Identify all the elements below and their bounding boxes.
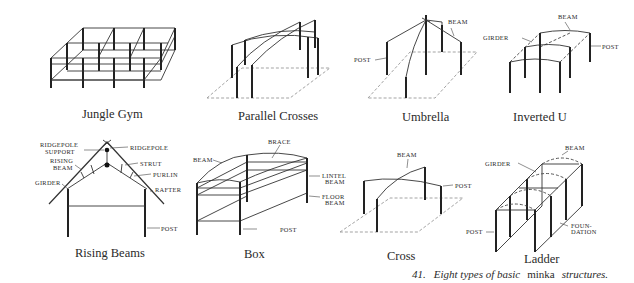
label-strut: STRUT bbox=[140, 160, 162, 167]
leader-line bbox=[443, 185, 453, 186]
label-girder: GIRDER bbox=[485, 160, 511, 167]
label-ridgepole: RIDGEPOLE bbox=[130, 144, 168, 151]
label-beam: BEAM bbox=[448, 18, 468, 25]
caption-number: 41. bbox=[412, 268, 426, 280]
label-foundation-2: DATION bbox=[571, 228, 597, 235]
label-purlin: PURLIN bbox=[153, 171, 178, 178]
label-beam: BEAM bbox=[565, 144, 585, 151]
leader-line bbox=[213, 160, 222, 163]
parallel-crosses-diagram bbox=[207, 20, 330, 98]
panel-title-rising-beams: Rising Beams bbox=[75, 246, 145, 260]
leader-line bbox=[75, 165, 82, 170]
leader-line bbox=[522, 38, 532, 42]
panel-title-box: Box bbox=[244, 247, 266, 261]
label-post: POST bbox=[161, 225, 178, 232]
figure-caption: 41. Eight types of basic minka structure… bbox=[412, 264, 608, 281]
leader-line bbox=[518, 163, 536, 172]
label-brace: BRACE bbox=[268, 138, 291, 145]
label-beam: BEAM bbox=[193, 156, 213, 163]
leader-line bbox=[565, 22, 570, 30]
label-ridgepole-support-2: SUPPORT bbox=[45, 148, 75, 155]
label-post: POST bbox=[280, 226, 297, 233]
panel-title-umbrella: Umbrella bbox=[402, 110, 450, 124]
ladder-diagram bbox=[496, 158, 582, 252]
minka-structures-figure: Jungle Gym Parallel Crosses BEAM POST Um… bbox=[0, 0, 634, 283]
label-rafter: RAFTER bbox=[155, 186, 182, 193]
leader-line bbox=[375, 58, 386, 60]
panel-title-cross: Cross bbox=[387, 249, 416, 263]
label-ridgepole-support-1: RIDGEPOLE bbox=[40, 141, 78, 148]
label-post: POST bbox=[602, 43, 619, 50]
label-post: POST bbox=[354, 56, 371, 63]
inverted-u-diagram bbox=[510, 31, 590, 94]
cross-diagram bbox=[340, 167, 463, 232]
umbrella-diagram bbox=[368, 15, 477, 98]
leader-line bbox=[562, 151, 568, 155]
caption-prefix: Eight types of basic bbox=[433, 268, 521, 280]
panel-title-parallel-crosses: Parallel Crosses bbox=[238, 109, 318, 123]
label-beam: BEAM bbox=[397, 151, 417, 158]
label-post: POST bbox=[455, 182, 472, 189]
panel-title-jungle-gym: Jungle Gym bbox=[82, 107, 143, 121]
leader-line bbox=[407, 159, 408, 168]
caption-suffix: structures. bbox=[562, 268, 608, 280]
label-post: POST bbox=[466, 228, 483, 235]
label-lintel-beam-2: BEAM bbox=[325, 178, 345, 185]
label-rising-beam-1: RISING bbox=[50, 157, 73, 164]
label-beam: BEAM bbox=[558, 13, 578, 20]
label-girder: GIRDER bbox=[483, 34, 509, 41]
box-diagram bbox=[197, 153, 307, 235]
label-rising-beam-2: BEAM bbox=[53, 164, 73, 171]
leader-line bbox=[451, 28, 454, 36]
leader-line bbox=[309, 196, 320, 197]
jungle-gym-diagram bbox=[51, 28, 175, 88]
label-girder: GIRDER bbox=[35, 179, 61, 186]
label-floor-beam-2: BEAM bbox=[325, 199, 345, 206]
panel-title-inverted-u: Inverted U bbox=[513, 110, 567, 124]
caption-term: minka bbox=[527, 268, 555, 280]
leader-line bbox=[272, 145, 280, 158]
